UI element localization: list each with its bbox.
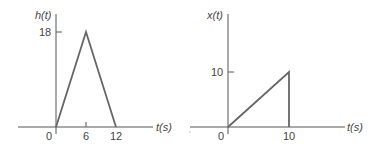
h-xtick-label-12: 12 xyxy=(110,130,122,142)
x-plot: x(t) 10 0 10 t(s) xyxy=(190,9,363,142)
h-plot: h(t) 18 0 6 12 t(s) xyxy=(18,9,191,142)
x-curve xyxy=(228,72,289,127)
h-ytick-label: 18 xyxy=(39,26,51,38)
x-ylabel: x(t) xyxy=(206,9,223,21)
x-xtick-label-10: 10 xyxy=(283,130,295,142)
x-xlabel: t(s) xyxy=(347,121,363,133)
h-ylabel: h(t) xyxy=(35,9,52,21)
diagram-canvas: h(t) 18 0 6 12 t(s) x(t) 10 0 10 t(s) xyxy=(0,0,380,150)
x-ytick-label: 10 xyxy=(211,66,223,78)
h-xtick-label-6: 6 xyxy=(83,130,89,142)
x-xtick-label-0: 0 xyxy=(218,130,224,142)
h-xtick-label-0: 0 xyxy=(46,130,52,142)
h-curve xyxy=(56,32,116,127)
h-xlabel: t(s) xyxy=(156,121,172,133)
stray-dot xyxy=(189,131,190,132)
